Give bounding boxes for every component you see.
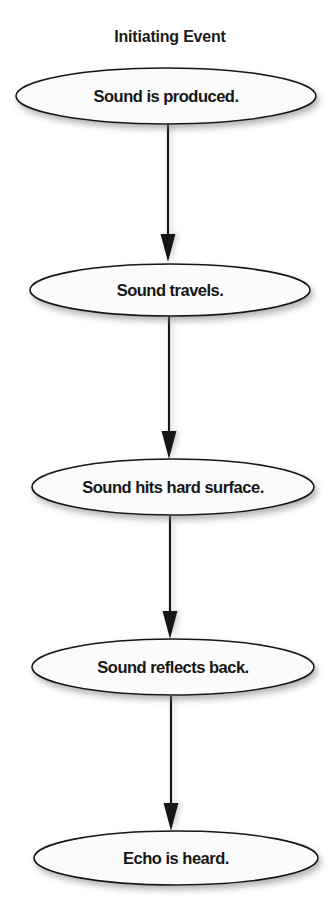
node-label: Sound is produced.	[93, 87, 238, 105]
page-title: Initiating Event	[114, 28, 226, 45]
flow-node-4[interactable]: Sound reflects back.	[32, 639, 314, 695]
flowchart-canvas: Initiating Event Sound is produced. Soun…	[0, 0, 335, 911]
flowchart-page: Initiating Event Sound is produced. Soun…	[0, 0, 335, 911]
node-label: Sound reflects back.	[97, 658, 248, 676]
flow-node-5[interactable]: Echo is heard.	[34, 831, 318, 885]
flow-node-2[interactable]: Sound travels.	[30, 264, 310, 316]
node-label: Sound travels.	[117, 281, 224, 299]
node-label: Echo is heard.	[123, 849, 229, 867]
flow-node-3[interactable]: Sound hits hard surface.	[32, 459, 314, 515]
node-label: Sound hits hard surface.	[82, 478, 263, 496]
flow-node-1[interactable]: Sound is produced.	[16, 68, 316, 124]
